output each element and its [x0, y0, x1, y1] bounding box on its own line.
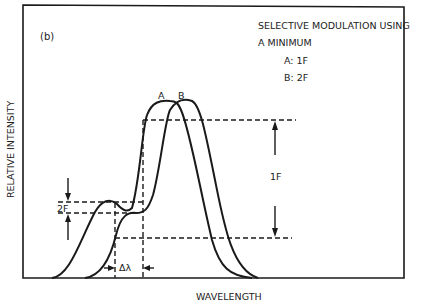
delta-lambda-label: Δλ: [119, 262, 131, 273]
legend-a: A: 1F: [284, 55, 308, 66]
x-axis-label: WAVELENGTH: [196, 291, 262, 302]
legend-b: B: 2F: [284, 72, 308, 83]
curve-a-label: A: [158, 90, 165, 101]
title-line-2: A MINIMUM: [258, 37, 312, 48]
y-axis-label: RELATIVE INTENSITY: [5, 101, 16, 198]
one-f-label: 1F: [270, 171, 282, 182]
two-f-label: 2F: [57, 203, 69, 214]
panel-label: (b): [40, 31, 54, 42]
curve-b: [85, 100, 258, 278]
title-line-1: SELECTIVE MODULATION USING: [258, 20, 410, 31]
curve-a: [52, 101, 252, 278]
diagram-canvas: (b) SELECTIVE MODULATION USING A MINIMUM…: [0, 0, 428, 305]
curve-b-label: B: [178, 90, 185, 101]
plot-frame: [23, 5, 404, 278]
